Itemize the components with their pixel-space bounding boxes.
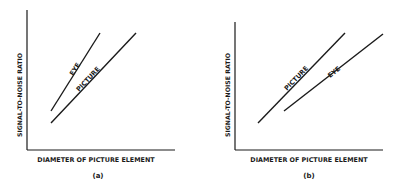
caption-a: (a) — [92, 172, 103, 180]
caption-b: (b) — [303, 172, 314, 180]
panel-b: PICTURE EYE SIGNAL-TO-NOISE RATIO DIAMET… — [224, 22, 383, 180]
picture-label-b: PICTURE — [283, 64, 310, 92]
x-axis-label-b: DIAMETER OF PICTURE ELEMENT — [250, 156, 368, 164]
y-axis-label-b: SIGNAL-TO-NOISE RATIO — [224, 53, 231, 137]
figure: EYE PICTURE SIGNAL-TO-NOISE RATIO DIAMET… — [0, 0, 398, 188]
y-axis-label-a: SIGNAL-TO-NOISE RATIO — [16, 53, 23, 137]
panel-a: EYE PICTURE SIGNAL-TO-NOISE RATIO DIAMET… — [16, 10, 175, 180]
x-axis-label-a: DIAMETER OF PICTURE ELEMENT — [37, 156, 155, 164]
